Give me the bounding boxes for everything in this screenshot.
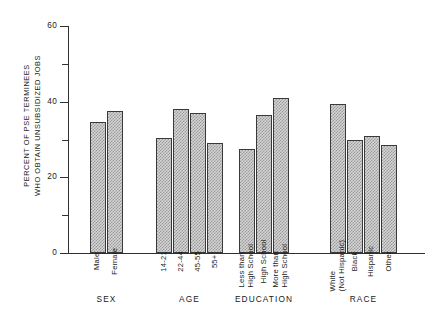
y-axis-label-line-1: PERCENT OF PSE TERMINEES	[22, 55, 33, 196]
category-label-line: 55+	[211, 254, 220, 268]
y-axis-tick-label-wrap: 60	[36, 21, 57, 31]
y-axis-tick-label-wrap: 0	[36, 248, 57, 258]
bar	[381, 145, 397, 253]
bar	[107, 111, 123, 253]
bar	[190, 113, 206, 253]
category-label: 55+	[208, 257, 222, 317]
group-title: SEX	[97, 294, 117, 304]
y-axis-label: PERCENT OF PSE TERMINEES WHO OBTAIN UNSU…	[14, 0, 50, 250]
category-label: High School	[257, 257, 271, 317]
category-label-line: 22-44	[177, 251, 186, 272]
y-axis-tick-major	[60, 26, 68, 27]
category-label-line: Male	[94, 253, 103, 270]
category-label-line: Black	[351, 251, 360, 271]
bar	[239, 149, 255, 253]
category-label-line: 45-55	[194, 251, 203, 272]
category-label-line: (Not Hispanic)	[338, 240, 347, 292]
category-label-line: 14-21	[160, 251, 169, 272]
category-label: 22-44	[174, 257, 188, 317]
category-label-line: High School	[260, 239, 269, 283]
category-label: 45-55	[191, 257, 205, 317]
bar	[330, 104, 346, 253]
category-label: Hispanic	[365, 257, 379, 317]
category-label-line: Female	[111, 248, 120, 275]
bar	[347, 140, 363, 254]
y-axis-tick-label: 0	[36, 248, 57, 257]
category-label: Less thanHigh School	[240, 257, 254, 317]
category-label: Black	[348, 257, 362, 317]
bar	[364, 136, 380, 253]
bar	[273, 98, 289, 253]
bar	[256, 115, 272, 253]
y-axis-tick-label: 60	[36, 21, 57, 30]
bar	[156, 138, 172, 253]
y-axis-tick-label-wrap: 20	[36, 172, 57, 182]
category-label: Female	[108, 257, 122, 317]
category-label: Other	[382, 257, 396, 317]
category-label: White(Not Hispanic)	[331, 257, 345, 317]
y-axis-tick-major	[60, 177, 68, 178]
plot-area	[68, 26, 425, 253]
y-axis-tick-label: 20	[36, 172, 57, 181]
bar	[90, 122, 106, 253]
chart-figure: PERCENT OF PSE TERMINEES WHO OBTAIN UNSU…	[0, 0, 433, 323]
y-axis-tick-label-wrap: 40	[36, 97, 57, 107]
y-axis-tick-major	[60, 102, 68, 103]
category-label: More thanHigh School	[274, 257, 288, 317]
y-axis-tick-label: 40	[36, 97, 57, 106]
category-label-line: High School	[247, 244, 256, 288]
bar	[173, 109, 189, 253]
group-title: RACE	[350, 294, 377, 304]
category-label-line: Hispanic	[368, 246, 377, 277]
category-label-line: Other	[385, 251, 394, 271]
category-label-line: High School	[281, 244, 290, 288]
group-title: EDUCATION	[235, 294, 293, 304]
bar	[207, 143, 223, 253]
category-label: 14-21	[157, 257, 171, 317]
category-label: Male	[91, 257, 105, 317]
y-axis-tick-major	[60, 253, 68, 254]
group-title: AGE	[179, 294, 200, 304]
